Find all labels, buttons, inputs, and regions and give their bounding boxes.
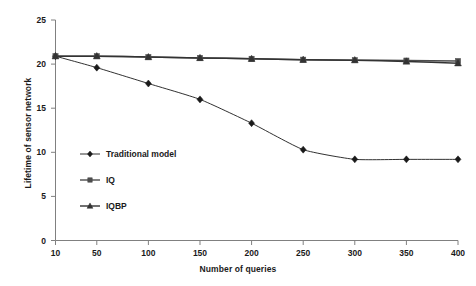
marker-diamond [300,146,306,153]
marker-diamond [455,156,461,163]
x-tick-label: 50 [80,248,114,258]
y-tick-label: 25 [24,15,46,25]
x-tick-label: 250 [286,248,320,258]
marker-diamond [145,80,151,87]
legend-markers [80,151,100,208]
plot-area [0,0,476,286]
legend-label-1: IQ [106,175,115,185]
marker-diamond [94,64,100,71]
x-axis-title: Number of queries [0,264,476,274]
series-line-2 [56,56,459,63]
chart-container: 0510152025 1050100150200250300350400 Tra… [0,0,476,286]
x-tick-label: 200 [235,248,269,258]
marker-diamond [87,151,92,157]
x-tick-label: 150 [183,248,217,258]
marker-diamond [352,156,358,163]
x-tick-label: 350 [389,248,423,258]
marker-diamond [197,96,203,103]
series-lines [56,56,459,160]
y-axis-title: Lifetime of sensor network [23,53,33,213]
marker-square [88,178,92,182]
y-tick-label: 0 [24,236,46,246]
series-markers [52,53,461,163]
series-line-0 [56,56,459,160]
legend-label-0: Traditional model [106,149,176,159]
x-tick-marks [56,241,459,246]
x-tick-label: 100 [131,248,165,258]
x-tick-label: 400 [441,248,475,258]
marker-diamond [249,120,255,127]
x-tick-label: 10 [39,248,73,258]
x-tick-label: 300 [338,248,372,258]
marker-diamond [403,156,409,163]
legend-label-2: IQBP [106,201,127,211]
